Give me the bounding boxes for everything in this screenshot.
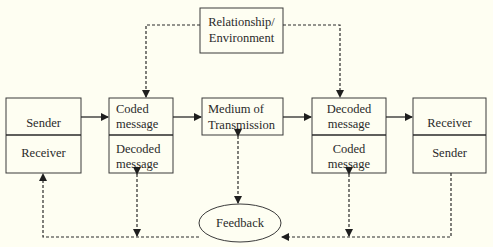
feedback-node: Feedback — [199, 204, 281, 242]
right-message-top-line1: Decoded — [327, 102, 372, 116]
right-party-node: Receiver Sender — [413, 98, 486, 173]
dashed-arrow-relationship-to-left-message — [146, 25, 200, 97]
right-party-bottom-label: Sender — [432, 146, 468, 160]
right-party-top-label: Receiver — [427, 116, 472, 130]
right-message-bottom-line2: message — [328, 157, 371, 171]
dashed-arrow-relationship-to-right-message — [283, 25, 340, 97]
left-party-top-label: Sender — [26, 116, 62, 130]
dashed-arrow-feedback-to-left-party — [43, 174, 199, 237]
left-message-top-line2: message — [116, 117, 159, 131]
relationship-label-line1: Relationship/ — [208, 15, 275, 29]
left-message-bottom-line2: message — [116, 157, 159, 171]
right-message-top-line2: message — [328, 117, 371, 131]
left-party-node: Sender Receiver — [6, 98, 81, 173]
left-message-node: Coded message Decoded message — [109, 98, 173, 173]
left-message-top-line1: Coded — [116, 102, 149, 116]
medium-label-line2: Transmission — [208, 118, 276, 132]
relationship-label-line2: Environment — [209, 31, 275, 45]
left-party-bottom-label: Receiver — [21, 146, 66, 160]
dashed-arrow-right-party-to-feedback — [282, 173, 451, 237]
right-message-node: Decoded message Coded message — [312, 98, 386, 173]
medium-label-line1: Medium of — [208, 102, 265, 116]
feedback-label: Feedback — [216, 216, 265, 230]
medium-node: Medium of Transmission — [202, 98, 283, 135]
right-message-bottom-line1: Coded — [333, 142, 366, 156]
communication-model-diagram: Relationship/ Environment Sender Receive… — [0, 0, 493, 247]
left-message-bottom-line1: Decoded — [116, 142, 161, 156]
relationship-environment-node: Relationship/ Environment — [200, 8, 283, 53]
